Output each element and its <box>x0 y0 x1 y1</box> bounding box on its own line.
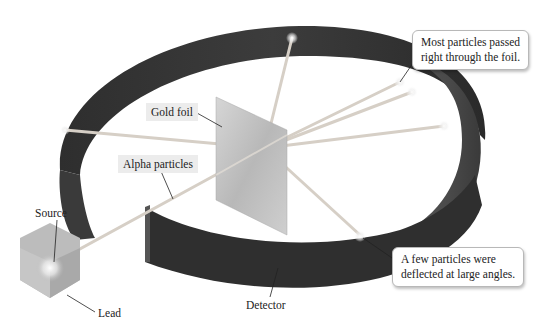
few-particles-callout: A few particles were deflected at large … <box>392 247 524 287</box>
callout-line: right through the foil. <box>421 50 520 65</box>
radioactive-source <box>36 254 64 282</box>
detector-label: Detector <box>246 298 286 312</box>
alpha-particles-label: Alpha particles <box>118 155 198 173</box>
lead-block <box>20 223 80 298</box>
most-particles-callout: Most particles passed right through the … <box>412 30 529 70</box>
lead-label: Lead <box>98 306 121 320</box>
gold-foil-label: Gold foil <box>146 103 198 121</box>
source-label: Source <box>35 206 67 220</box>
gold-foil-sheet <box>216 97 287 235</box>
callout-line: Most particles passed <box>421 35 520 50</box>
gold-foil-experiment-diagram: Source Lead Alpha particles Gold foil De… <box>0 0 546 333</box>
callout-line: A few particles were <box>401 252 515 267</box>
callout-line: deflected at large angles. <box>401 267 515 282</box>
